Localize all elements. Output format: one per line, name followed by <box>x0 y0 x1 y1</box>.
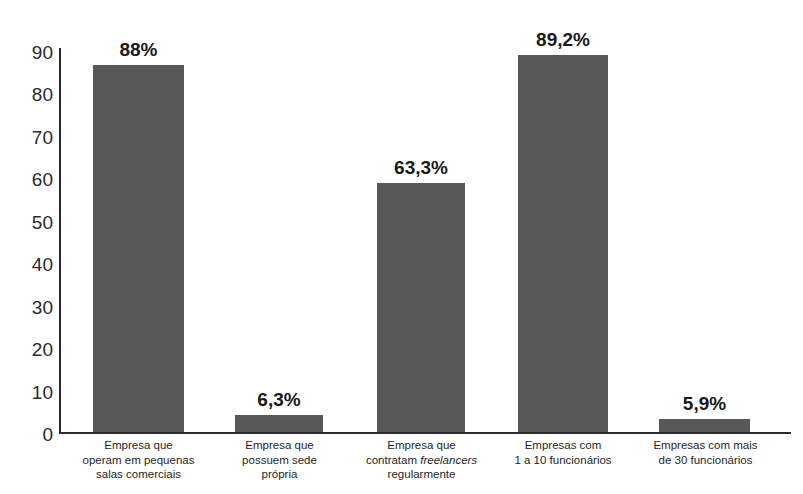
bar-value-label-1: 6,3% <box>235 390 323 409</box>
y-tick-label: 90 <box>7 43 53 62</box>
category-label-line: contratam freelancers <box>344 453 499 468</box>
category-label-line: possuem sede <box>204 453 355 468</box>
category-label-line: Empresa que <box>63 438 214 453</box>
y-axis-line <box>59 48 61 434</box>
bar-1 <box>235 415 323 432</box>
y-tick-label: 20 <box>7 340 53 359</box>
bar-value-label-0: 88% <box>93 40 184 59</box>
y-tick-label: 60 <box>7 170 53 189</box>
category-label-line: Empresa que <box>204 438 355 453</box>
category-label-line: regularmente <box>344 467 499 482</box>
y-axis-tick-labels: 90 80 70 60 50 40 30 20 10 0 <box>0 0 53 494</box>
category-label-2: Empresa que contratam freelancers regula… <box>344 438 499 482</box>
category-label-line: Empresa que <box>344 438 499 453</box>
bar-chart: 90 80 70 60 50 40 30 20 10 0 88% 6,3% 63… <box>0 0 803 494</box>
bar-0 <box>93 65 184 432</box>
category-label-line: operam em pequenas <box>63 453 214 468</box>
y-tick-label: 50 <box>7 213 53 232</box>
y-tick-label: 30 <box>7 298 53 317</box>
bar-4 <box>659 419 750 432</box>
category-label-line: Empresas com <box>487 438 639 453</box>
x-axis-line <box>59 432 791 434</box>
category-label-line: salas comerciais <box>63 467 214 482</box>
category-label-line: de 30 funcionários <box>628 453 783 468</box>
category-label-3: Empresas com 1 a 10 funcionários <box>487 438 639 467</box>
y-tick-label: 80 <box>7 85 53 104</box>
category-label-line: 1 a 10 funcionários <box>487 453 639 468</box>
bar-3 <box>518 55 608 432</box>
y-tick-label: 70 <box>7 128 53 147</box>
bar-value-label-3: 89,2% <box>518 30 608 49</box>
y-tick-label: 10 <box>7 383 53 402</box>
y-tick-label: 40 <box>7 255 53 274</box>
category-label-line: Empresas com mais <box>628 438 783 453</box>
bar-value-label-2: 63,3% <box>377 158 465 177</box>
bar-2 <box>377 183 465 432</box>
bar-value-label-4: 5,9% <box>659 394 750 413</box>
y-tick-label: 0 <box>7 425 53 444</box>
category-label-4: Empresas com mais de 30 funcionários <box>628 438 783 467</box>
category-label-line: própria <box>204 467 355 482</box>
category-label-0: Empresa que operam em pequenas salas com… <box>63 438 214 482</box>
category-label-1: Empresa que possuem sede própria <box>204 438 355 482</box>
